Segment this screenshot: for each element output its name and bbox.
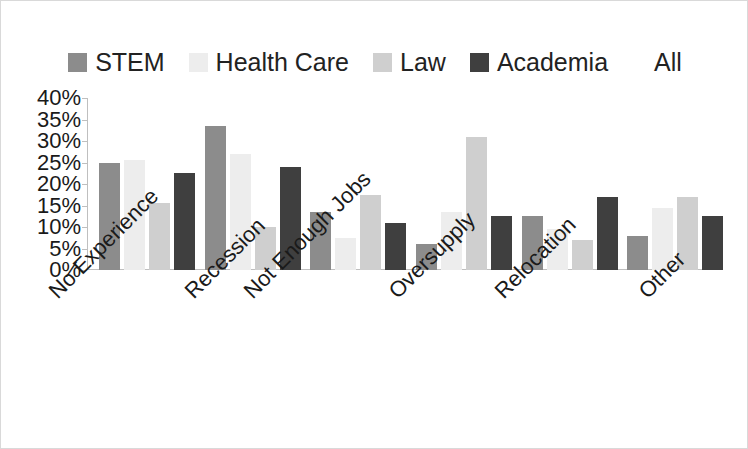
bar-stem[interactable] bbox=[627, 236, 648, 270]
legend-item-all[interactable]: All bbox=[654, 50, 682, 75]
bar-academia[interactable] bbox=[174, 173, 195, 270]
legend-item-health-care[interactable]: Health Care bbox=[189, 50, 349, 75]
bar-law[interactable] bbox=[149, 203, 170, 270]
chart-legend: STEMHealth CareLawAcademiaAll bbox=[1, 43, 748, 81]
bar-health-care[interactable] bbox=[335, 238, 356, 270]
bar-academia[interactable] bbox=[597, 197, 618, 270]
bar-academia[interactable] bbox=[702, 216, 723, 270]
bar-law[interactable] bbox=[466, 137, 487, 270]
bar-law[interactable] bbox=[360, 195, 381, 270]
bar-academia[interactable] bbox=[491, 216, 512, 270]
bar-academia[interactable] bbox=[385, 223, 406, 270]
bar-law[interactable] bbox=[572, 240, 593, 270]
legend-item-label: Health Care bbox=[216, 50, 349, 75]
legend-item-label: Academia bbox=[497, 50, 608, 75]
legend-item-law[interactable]: Law bbox=[373, 50, 446, 75]
legend-swatch-icon bbox=[470, 53, 489, 72]
x-axis-category-labels: No ExperienceRecessionNot Enough JobsOve… bbox=[87, 273, 721, 403]
chart-container: STEMHealth CareLawAcademiaAll 40%35%30%2… bbox=[0, 0, 748, 449]
legend-item-label: All bbox=[654, 50, 682, 75]
bar-group bbox=[627, 98, 721, 270]
legend-item-label: STEM bbox=[95, 50, 164, 75]
legend-item-stem[interactable]: STEM bbox=[68, 50, 164, 75]
legend-item-label: Law bbox=[400, 50, 446, 75]
legend-swatch-icon bbox=[68, 53, 87, 72]
legend-swatch-icon bbox=[189, 53, 208, 72]
y-axis-tick-labels: 40%35%30%25%20%15%10%5%0% bbox=[19, 98, 81, 270]
legend-item-academia[interactable]: Academia bbox=[470, 50, 608, 75]
legend-swatch-icon bbox=[373, 53, 392, 72]
plot-area bbox=[87, 98, 721, 270]
